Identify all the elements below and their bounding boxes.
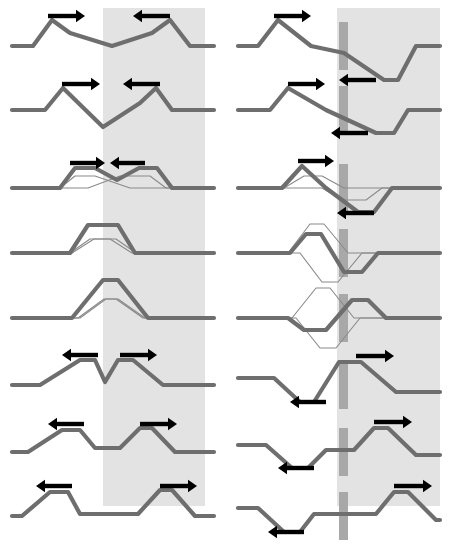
panel-fixed-boundary bbox=[226, 0, 451, 550]
arrow-left-7-0 bbox=[278, 462, 314, 474]
arrow-head bbox=[36, 480, 45, 492]
arrow-head bbox=[48, 418, 57, 430]
arrow-head bbox=[91, 78, 100, 90]
boundary-marker bbox=[339, 86, 348, 134]
arrow-head bbox=[76, 10, 85, 22]
arrow-right-2-0 bbox=[62, 78, 100, 90]
fixed-boundary-diagram bbox=[226, 0, 451, 550]
arrow-left-8-0 bbox=[268, 526, 304, 538]
arrow-head bbox=[325, 155, 334, 167]
arrow-head bbox=[278, 462, 287, 474]
arrow-head bbox=[331, 127, 340, 139]
arrow-head bbox=[62, 349, 71, 361]
boundary-marker bbox=[339, 22, 348, 70]
boundary-marker bbox=[339, 361, 348, 409]
panel-free-boundary bbox=[0, 0, 226, 550]
free-boundary-diagram bbox=[0, 0, 226, 550]
wave-reflection-figure bbox=[0, 0, 451, 550]
arrow-right-2-0 bbox=[288, 78, 325, 90]
arrow-head bbox=[302, 10, 311, 22]
arrow-head bbox=[316, 78, 325, 90]
arrow-head bbox=[268, 526, 277, 538]
